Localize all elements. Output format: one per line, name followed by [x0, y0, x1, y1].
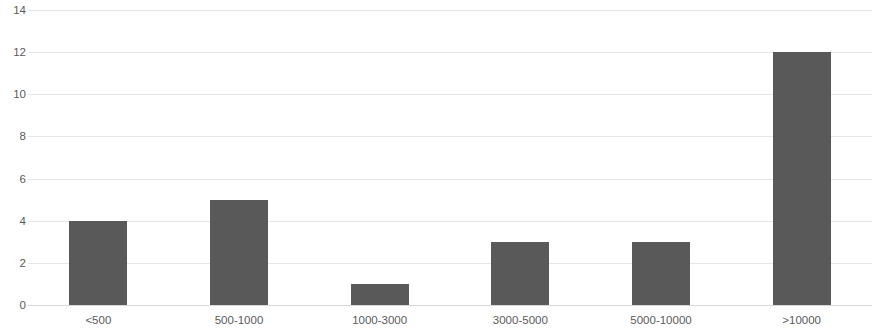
bar-chart: 02468101214 <500500-10001000-30003000-50…: [0, 0, 878, 334]
x-tick-label: 3000-5000: [493, 314, 548, 327]
gridline: [28, 305, 872, 306]
y-tick-label: 2: [0, 257, 26, 268]
y-axis: 02468101214: [0, 0, 26, 334]
y-tick-label: 6: [0, 173, 26, 184]
x-tick-label: <500: [85, 314, 111, 327]
y-tick-label: 12: [0, 47, 26, 58]
y-tick-label: 14: [0, 5, 26, 16]
y-tick-label: 8: [0, 131, 26, 142]
x-tick-label: 1000-3000: [352, 314, 407, 327]
x-tick-label: >10000: [782, 314, 821, 327]
bar: [69, 221, 127, 305]
bar: [210, 200, 268, 305]
bar: [491, 242, 549, 305]
bar: [773, 52, 831, 305]
y-tick-label: 4: [0, 215, 26, 226]
x-tick-label: 500-1000: [215, 314, 264, 327]
bar: [632, 242, 690, 305]
y-tick-label: 10: [0, 89, 26, 100]
x-axis: <500500-10001000-30003000-50005000-10000…: [28, 310, 872, 334]
bar: [351, 284, 409, 305]
x-tick-label: 5000-10000: [630, 314, 691, 327]
bar-series: [28, 10, 872, 305]
y-tick-label: 0: [0, 300, 26, 311]
